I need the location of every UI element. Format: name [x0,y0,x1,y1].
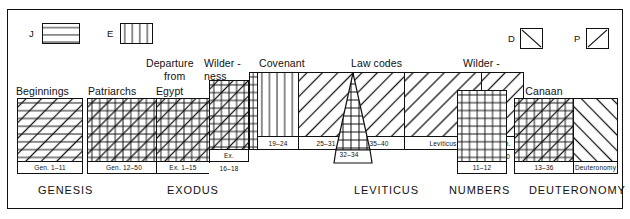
section-title-covenant: Covenant [259,58,305,69]
legend-swatch-e [120,23,153,44]
legend-swatch-d [520,28,543,49]
legend-swatch-p [586,28,609,49]
section-title-lawcodes: Law codes [351,58,402,69]
diagram-frame: J E D P Beginnings Patriarchs Departure … [7,9,623,209]
block-covenant-32-34-caption: 32–34 [332,152,366,159]
block-sinai-strip-fill [250,73,257,149]
block-wilderness-2-caption: 11–12 [458,161,506,173]
block-deuteronomy-caption: Deuteronomy [574,161,617,173]
legend-swatch-j [42,23,80,44]
block-deuteronomy[interactable]: Deuteronomy [573,98,618,174]
section-title-wilderness-2: Wilder - [463,58,500,69]
legend-label-e: E [107,29,113,39]
block-patriarchs-caption: Gen. 12–50 [88,161,160,173]
block-egypt-caption: Ex. 1–15 [157,161,209,173]
block-patriarchs[interactable]: Gen. 12–50 [87,98,161,174]
section-title-patriarchs: Patriarchs [88,86,136,97]
legend-swatch-e-fill [121,24,152,43]
book-label-genesis: GENESIS [38,185,93,197]
block-canaan-caption: 13–36 [515,161,573,173]
block-wilderness-1-fill [210,81,248,149]
block-beginnings[interactable]: Gen. 1–11 [17,98,83,174]
section-title-beginnings: Beginnings [16,86,69,97]
section-title-departure-egypt: Egypt [156,86,183,97]
block-wilderness-1-caption: Ex. [209,149,249,162]
block-wilderness-2[interactable]: 11–12 [457,90,507,174]
legend-label-p: P [574,34,580,44]
block-canaan[interactable]: 13–36 [514,98,574,174]
block-beginnings-caption: Gen. 1–11 [18,161,82,173]
book-label-leviticus: LEVITICUS [354,185,419,197]
legend-swatch-j-fill [43,24,79,43]
section-title-departure-from: from [164,71,185,82]
block-covenant-19-24-caption: 19–24 [257,136,299,150]
section-title-wilderness-1: Wilder - [204,58,241,69]
legend-swatch-d-fill [521,29,542,48]
block-egypt[interactable]: Ex. 1–15 [156,98,210,174]
legend-swatch-p-fill [587,29,608,48]
book-label-numbers: NUMBERS [449,185,510,197]
book-label-exodus: EXODUS [167,185,219,197]
legend-label-j: J [29,29,34,39]
legend-label-d: D [508,34,515,44]
block-wilderness-1-caption2: 16–18 [209,163,249,174]
section-title-departure: Departure [146,58,194,69]
block-wilderness-1[interactable] [209,80,249,150]
book-label-deuteronomy: DEUTERONOMY [529,185,626,197]
